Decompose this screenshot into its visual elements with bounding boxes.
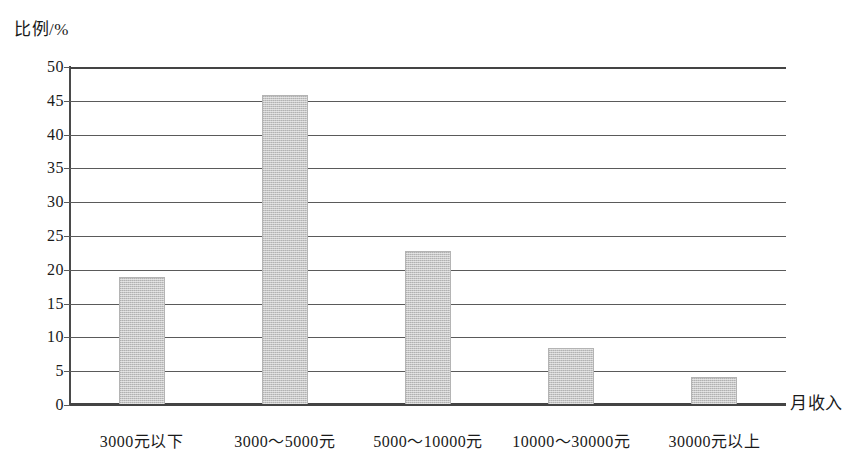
y-tick-label-25: 25 — [20, 228, 64, 244]
y-tick-label-0: 0 — [20, 397, 64, 413]
y-tick-label-5: 5 — [20, 363, 64, 379]
y-tick-mark-15 — [64, 304, 70, 305]
y-tick-mark-25 — [64, 236, 70, 237]
y-tick-mark-35 — [64, 168, 70, 169]
y-tick-label-30: 30 — [20, 194, 64, 210]
y-tick-mark-5 — [64, 371, 70, 372]
y-tick-label-35: 35 — [20, 160, 64, 176]
bar-4 — [548, 348, 594, 405]
y-tick-label-50: 50 — [20, 59, 64, 75]
y-tick-label-15: 15 — [20, 296, 64, 312]
y-tick-label-45: 45 — [20, 93, 64, 109]
plot-area: 50454035302520151050 — [70, 67, 786, 405]
x-axis-title: 月收入 — [790, 394, 843, 414]
y-tick-mark-10 — [64, 337, 70, 338]
gridline-40 — [70, 135, 786, 136]
y-tick-mark-40 — [64, 135, 70, 136]
y-axis-title: 比例/% — [14, 20, 69, 40]
bar-1 — [119, 277, 165, 405]
y-tick-mark-45 — [64, 101, 70, 102]
x-axis-line — [70, 404, 786, 406]
gridline-45 — [70, 101, 786, 102]
bar-5 — [691, 377, 737, 405]
y-tick-label-10: 10 — [20, 329, 64, 345]
x-tick-label-5: 30000元以上 — [614, 432, 814, 452]
bar-3 — [405, 251, 451, 405]
bar-2 — [262, 95, 308, 405]
gridline-50 — [70, 67, 786, 69]
gridline-25 — [70, 236, 786, 237]
y-tick-label-20: 20 — [20, 262, 64, 278]
bar-chart-figure: 比例/% 50454035302520151050 月收入 3000元以下300… — [0, 0, 868, 470]
y-tick-mark-50 — [64, 67, 70, 68]
gridline-30 — [70, 202, 786, 203]
y-tick-label-40: 40 — [20, 127, 64, 143]
gridline-35 — [70, 168, 786, 169]
y-tick-mark-20 — [64, 270, 70, 271]
y-tick-mark-30 — [64, 202, 70, 203]
